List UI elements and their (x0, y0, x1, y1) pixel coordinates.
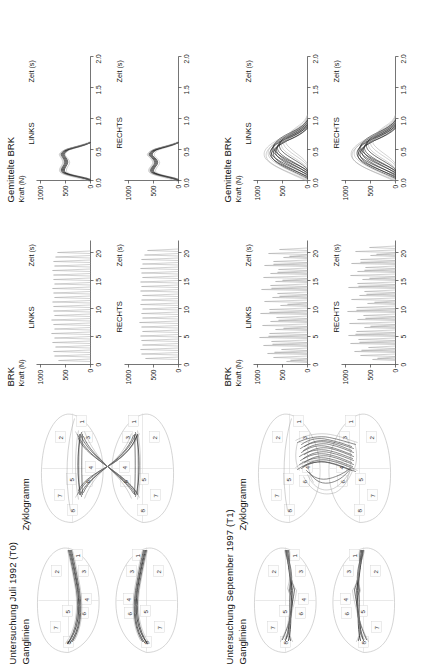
gem-rechts-plot-t1: RECHTS (333, 52, 409, 202)
gem-links-plot-t1: LINKS (245, 52, 321, 202)
brk-ylabel-t1: Kraft (N) (233, 359, 242, 386)
gem-ylabel-t0: Kraft (N) (16, 175, 25, 202)
svg-text:4: 4 (83, 597, 90, 601)
svg-text:1.5: 1.5 (94, 85, 101, 94)
brk-links-xlabel-t1: Zeit (s) (243, 244, 252, 266)
svg-text:1000: 1000 (36, 369, 43, 384)
svg-text:5: 5 (182, 334, 189, 338)
svg-text:10: 10 (399, 305, 406, 313)
svg-text:1: 1 (74, 553, 81, 557)
svg-text:10: 10 (311, 305, 318, 313)
svg-text:0: 0 (303, 368, 310, 372)
svg-text:500: 500 (149, 185, 156, 196)
svg-text:5: 5 (64, 609, 71, 613)
gem-rechts-xlabel-t1: Zeit (s) (331, 60, 340, 82)
svg-text:6: 6 (126, 611, 133, 615)
gem-rechts-side-label-t1: RECHTS (331, 117, 340, 148)
svg-text:7: 7 (156, 625, 163, 629)
svg-text:1: 1 (291, 553, 298, 557)
svg-text:1: 1 (295, 419, 302, 423)
svg-text:2: 2 (368, 435, 375, 439)
svg-text:1.5: 1.5 (311, 85, 318, 94)
svg-text:500: 500 (366, 185, 373, 196)
svg-text:4: 4 (87, 465, 94, 469)
svg-text:1000: 1000 (341, 185, 348, 200)
svg-text:1: 1 (130, 419, 137, 423)
brk-links-plot-t1: LINKS (245, 236, 321, 386)
svg-text:5: 5 (281, 609, 288, 613)
svg-text:0: 0 (399, 362, 406, 366)
brk-title-t0: BRK (4, 366, 15, 386)
svg-text:3: 3 (341, 435, 348, 439)
svg-text:2: 2 (270, 569, 277, 573)
svg-text:1000: 1000 (341, 369, 348, 384)
svg-text:0: 0 (174, 184, 181, 188)
zyklogramm-label-t0: Zyklogramm (19, 478, 30, 530)
svg-text:1.5: 1.5 (182, 85, 189, 94)
svg-text:6: 6 (301, 479, 308, 483)
svg-text:15: 15 (311, 277, 318, 285)
svg-text:5: 5 (359, 609, 366, 613)
svg-text:3: 3 (128, 569, 135, 573)
svg-text:2: 2 (151, 435, 158, 439)
gem-ylabel-t1: Kraft (N) (233, 175, 242, 202)
svg-text:0: 0 (303, 184, 310, 188)
svg-text:2.0: 2.0 (311, 54, 318, 63)
gem-links-plot-t0: LINKS (28, 52, 104, 202)
svg-text:500: 500 (61, 185, 68, 196)
svg-text:1.0: 1.0 (182, 116, 189, 125)
svg-text:3: 3 (297, 569, 304, 573)
brk-rechts-side-label-t0: RECHTS (114, 301, 123, 332)
gem-rechts-xlabel-t0: Zeit (s) (114, 60, 123, 82)
svg-text:7: 7 (152, 493, 159, 497)
svg-text:7: 7 (52, 625, 59, 629)
svg-text:4: 4 (342, 597, 349, 601)
svg-text:1: 1 (347, 419, 354, 423)
svg-text:8: 8 (139, 508, 146, 512)
svg-text:1: 1 (351, 553, 358, 557)
svg-text:0.5: 0.5 (399, 147, 406, 156)
svg-text:0: 0 (311, 362, 318, 366)
zyklogramm-label-t1: Zyklogramm (236, 478, 247, 530)
svg-text:7: 7 (369, 493, 376, 497)
svg-text:5: 5 (357, 477, 364, 481)
svg-text:1000: 1000 (36, 185, 43, 200)
brk-links-side-label-t1: LINKS (243, 306, 252, 328)
svg-text:500: 500 (278, 185, 285, 196)
svg-text:6: 6 (297, 611, 304, 615)
svg-text:15: 15 (94, 277, 101, 285)
section-t0: Untersuchung Juli 1992 (T0) Ganglinien 1… (0, 0, 216, 670)
svg-text:0.0: 0.0 (311, 178, 318, 187)
svg-text:20: 20 (311, 249, 318, 257)
brk-rechts-xlabel-t0: Zeit (s) (114, 244, 123, 266)
svg-text:0.0: 0.0 (182, 178, 189, 187)
svg-text:2: 2 (57, 435, 64, 439)
gem-links-xlabel-t1: Zeit (s) (243, 60, 252, 82)
svg-text:1000: 1000 (124, 185, 131, 200)
svg-text:0: 0 (86, 368, 93, 372)
svg-text:1: 1 (78, 419, 85, 423)
svg-text:3: 3 (301, 435, 308, 439)
svg-text:10: 10 (182, 305, 189, 313)
svg-text:1.0: 1.0 (94, 116, 101, 125)
brk-rechts-plot-t1: RECHTS (333, 236, 409, 386)
brk-links-side-label-t0: LINKS (26, 306, 35, 328)
svg-text:5: 5 (399, 334, 406, 338)
gem-title-t0: Gemittelte BRK (4, 137, 15, 202)
svg-text:7: 7 (273, 493, 280, 497)
svg-text:5: 5 (140, 477, 147, 481)
svg-text:7: 7 (269, 625, 276, 629)
svg-text:8: 8 (286, 508, 293, 512)
svg-text:500: 500 (149, 369, 156, 380)
svg-text:20: 20 (94, 249, 101, 257)
svg-text:8: 8 (356, 508, 363, 512)
svg-text:7: 7 (56, 493, 63, 497)
svg-text:0.5: 0.5 (311, 147, 318, 156)
svg-text:1000: 1000 (253, 369, 260, 384)
svg-text:4: 4 (121, 465, 128, 469)
svg-text:0: 0 (391, 184, 398, 188)
brk-links-plot-t0: LINKS (28, 236, 104, 386)
svg-text:2: 2 (274, 435, 281, 439)
svg-text:5: 5 (285, 477, 292, 481)
figure-page: Untersuchung Juli 1992 (T0) Ganglinien 1… (0, 0, 433, 670)
